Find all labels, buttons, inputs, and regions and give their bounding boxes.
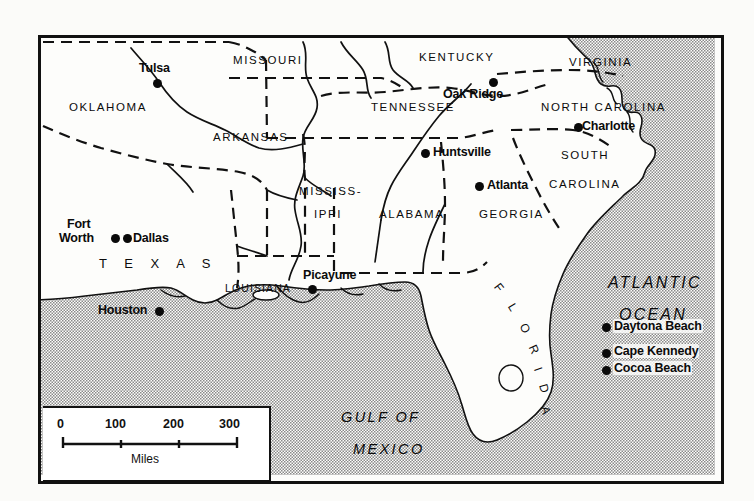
city-dot-atlanta[interactable] — [475, 182, 484, 191]
city-dot-charlotte[interactable] — [574, 123, 583, 132]
city-dot-houston[interactable] — [155, 307, 164, 316]
city-dot-picayune[interactable] — [308, 285, 317, 294]
city-dot-cocoa-beach[interactable] — [602, 366, 611, 375]
city-dot-tulsa[interactable] — [153, 79, 162, 88]
city-dot-oak-ridge[interactable] — [489, 78, 498, 87]
map-figure: OKLAHOMA MISSOURI ARKANSAS KENTUCKY VIRG… — [0, 0, 754, 501]
city-dot-cape-kennedy[interactable] — [602, 349, 611, 358]
city-dot-dallas[interactable] — [123, 234, 132, 243]
map-frame: OKLAHOMA MISSOURI ARKANSAS KENTUCKY VIRG… — [38, 35, 724, 484]
scale-tick-label-100: 100 — [105, 417, 126, 431]
city-dot-fort-worth[interactable] — [111, 234, 120, 243]
scale-tick-label-0: 0 — [57, 417, 64, 431]
city-dot-huntsville[interactable] — [421, 149, 430, 158]
scale-tick-label-200: 200 — [163, 417, 184, 431]
scale-bar: 0 100 200 300 Miles — [43, 406, 271, 482]
scale-units-label: Miles — [131, 452, 159, 466]
scale-tick-label-300: 300 — [219, 417, 240, 431]
scale-bar-graphic — [55, 434, 265, 454]
city-dot-daytona-beach[interactable] — [602, 323, 611, 332]
